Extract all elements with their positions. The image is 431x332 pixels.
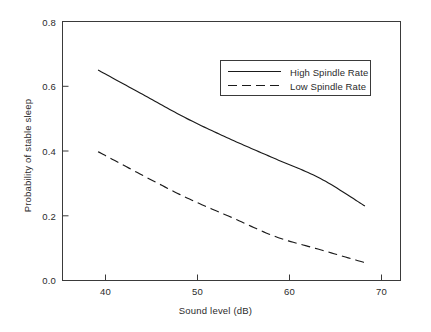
plot-area [0, 0, 431, 332]
x-axis-title: Sound level (dB) [0, 305, 431, 316]
legend-label-high-spindle-rate: High Spindle Rate [290, 66, 368, 77]
legend-label-low-spindle-rate: Low Spindle Rate [290, 80, 366, 91]
chart-figure: 0.0 0.2 0.4 0.6 0.8 40 50 60 70 Sound le… [0, 0, 431, 332]
y-tick-label-4: 0.8 [28, 17, 56, 28]
y-axis-title: Probability of stable sleep [22, 66, 33, 246]
y-tick-label-0: 0.0 [28, 275, 56, 286]
x-tick-label-2: 60 [284, 286, 295, 297]
x-tick-label-3: 70 [376, 286, 387, 297]
x-tick-label-1: 50 [192, 286, 203, 297]
x-tick-label-0: 40 [100, 286, 111, 297]
